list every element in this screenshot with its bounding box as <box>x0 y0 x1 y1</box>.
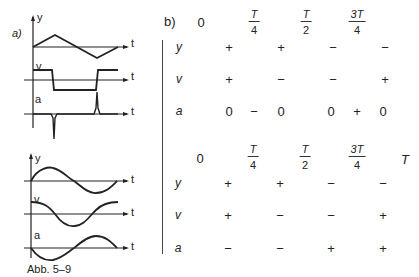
bottom-row-y-label: y <box>175 176 181 190</box>
top-row-y-label: y <box>176 40 182 54</box>
bottom-v-t-label: t <box>131 207 134 218</box>
top-a-value: 0 <box>277 105 284 118</box>
top-a-value: + <box>353 105 361 118</box>
bottom-v-sign: − <box>327 209 335 222</box>
motion-graphs <box>0 0 140 277</box>
top-y-sign: − <box>329 41 337 54</box>
top-y-label: y <box>37 12 43 23</box>
top-v-label: v <box>36 61 42 72</box>
figure-b-label: b) <box>164 16 176 27</box>
bottom-v-sign: − <box>276 209 284 222</box>
bottom-header-t-quarter: T 4 <box>248 143 259 171</box>
top-row-a-label: a <box>176 104 183 118</box>
top-header-0: 0 <box>197 16 204 29</box>
bottom-y-sign: + <box>224 177 232 190</box>
bottom-y-t-label: t <box>131 174 134 185</box>
top-row-v-label: v <box>176 72 182 86</box>
a-spike-curve <box>33 92 118 139</box>
bottom-header-0: 0 <box>196 152 203 165</box>
bottom-y-sign: − <box>379 177 387 190</box>
bottom-y-label: y <box>35 153 41 164</box>
bottom-a-sign: − <box>224 242 232 255</box>
bottom-y-sign: + <box>276 177 284 190</box>
top-v-sign: + <box>381 73 389 86</box>
figure-caption: Abb. 5–9 <box>27 263 71 275</box>
bottom-header-t-half: T 2 <box>300 143 311 171</box>
top-v-t-label: t <box>131 71 134 82</box>
top-a-label: a <box>35 94 41 105</box>
top-y-sign: − <box>381 41 389 54</box>
top-a-value: − <box>250 105 258 118</box>
top-y-sign: + <box>277 41 285 54</box>
top-v-sign: + <box>225 73 233 86</box>
top-header-t-quarter: T 4 <box>249 8 260 36</box>
bottom-y-sign: − <box>327 177 335 190</box>
bottom-a-label: a <box>34 230 40 241</box>
bottom-a-sign: + <box>379 242 387 255</box>
bottom-v-sign: + <box>379 209 387 222</box>
bottom-a-t-label: t <box>131 241 134 252</box>
top-header-t-half: T 2 <box>301 8 312 36</box>
bottom-v-sign: + <box>224 209 232 222</box>
figure-a-label: a) <box>12 28 22 39</box>
bottom-row-a-label: a <box>175 241 182 255</box>
top-a-value: 0 <box>379 105 386 118</box>
top-a-t-label: t <box>131 106 134 117</box>
table-divider-line <box>162 40 163 254</box>
bottom-row-v-label: v <box>175 208 181 222</box>
top-v-sign: − <box>277 73 285 86</box>
bottom-header-t: T <box>401 153 409 166</box>
top-y-t-label: t <box>131 38 134 49</box>
top-header-three-quarter-t: 3T 4 <box>349 8 366 36</box>
bottom-header-three-quarter-t: 3T 4 <box>349 143 366 171</box>
bottom-v-label: v <box>34 194 40 205</box>
top-a-value: 0 <box>327 105 334 118</box>
top-y-sign: + <box>225 41 233 54</box>
top-a-value: 0 <box>225 105 232 118</box>
bottom-a-sign: − <box>276 242 284 255</box>
y-sine-curve <box>31 168 117 193</box>
top-v-sign: − <box>329 73 337 86</box>
bottom-a-sign: + <box>327 242 335 255</box>
